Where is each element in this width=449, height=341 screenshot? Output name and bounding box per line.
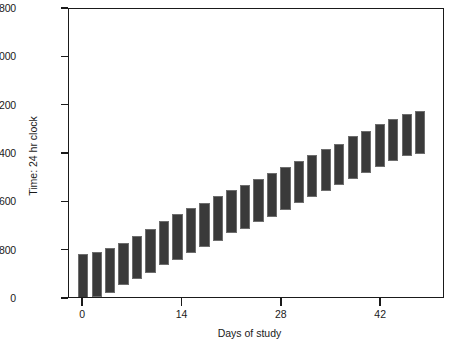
y-tick-mark (61, 249, 68, 250)
x-tick-label: 42 (360, 309, 400, 320)
bar (240, 185, 250, 229)
y-axis: Time: 24 hr clock 0800160024003200400048… (0, 0, 68, 341)
y-tick-label: 2400 (0, 148, 16, 159)
x-tick-label: 14 (162, 309, 202, 320)
bar (375, 124, 385, 166)
x-tick-label: 28 (261, 309, 301, 320)
y-axis-title: Time: 24 hr clock (27, 61, 39, 251)
y-tick-mark (61, 104, 68, 105)
bar (78, 254, 88, 297)
bar (199, 203, 209, 247)
bar (348, 136, 358, 178)
bar (280, 167, 290, 209)
bar (267, 173, 277, 217)
bar (402, 114, 412, 156)
bar (159, 221, 169, 265)
bar-series-sleep-episode-interval (69, 9, 443, 297)
x-tick-label: 0 (62, 309, 102, 320)
x-tick-mark (81, 298, 82, 306)
y-tick-label: 4800 (0, 3, 16, 14)
y-tick-label: 3200 (0, 100, 16, 111)
bar (415, 111, 425, 155)
bar (253, 179, 263, 221)
bar (105, 248, 115, 293)
bar (118, 243, 128, 285)
x-tick-mark (379, 298, 380, 306)
bar (186, 208, 196, 253)
y-tick-mark (61, 201, 68, 202)
bar (92, 252, 102, 297)
chart-figure: Time: 24 hr clock 0800160024003200400048… (0, 0, 449, 341)
bar (213, 196, 223, 241)
x-tick-mark (181, 298, 182, 306)
bar (388, 119, 398, 161)
bar (334, 144, 344, 185)
plot-area (68, 8, 444, 298)
x-axis-title: Days of study (0, 327, 449, 339)
y-tick-label: 4000 (0, 51, 16, 62)
bar (132, 236, 142, 280)
y-tick-mark (61, 7, 68, 8)
bar (172, 214, 182, 260)
bar (321, 149, 331, 191)
y-tick-label: 1600 (0, 196, 16, 207)
bar (307, 155, 317, 197)
y-tick-mark (61, 56, 68, 57)
bar (294, 161, 304, 203)
x-axis: 0142842 Days of study (0, 298, 449, 341)
bar (361, 131, 371, 173)
x-tick-mark (280, 298, 281, 306)
y-tick-label: 800 (0, 245, 16, 256)
bar (145, 229, 155, 273)
y-tick-mark (61, 152, 68, 153)
bar (226, 190, 236, 233)
